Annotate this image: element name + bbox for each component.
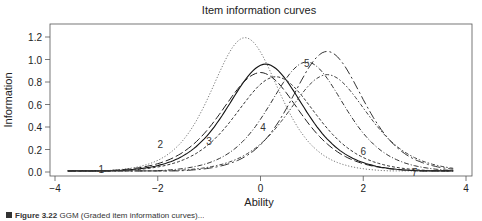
y-tick-label: 0.6 <box>28 100 42 111</box>
y-tick-label: 0.0 <box>28 167 42 178</box>
info-curve-4 <box>68 62 453 171</box>
x-tick-label: 4 <box>463 183 469 194</box>
x-tick-label: −4 <box>49 183 61 194</box>
info-curve-2 <box>68 64 453 171</box>
y-tick-label: 0.8 <box>28 77 42 88</box>
info-curve-1 <box>68 38 453 171</box>
y-tick-label: 1.0 <box>28 55 42 66</box>
x-tick-label: 2 <box>360 183 366 194</box>
curve-label-6: 6 <box>360 146 366 157</box>
x-tick-label: 0 <box>258 183 264 194</box>
caption-figure-label: Figure 3.22 <box>15 211 57 220</box>
item-information-chart: Item information curves 0.00.20.40.60.81… <box>0 0 482 221</box>
curve-label-1: 1 <box>98 164 104 175</box>
curve-label-4: 4 <box>260 122 266 133</box>
curves <box>68 38 453 171</box>
x-axis: −4−2024 <box>49 176 469 194</box>
y-axis-label: Information <box>2 72 14 127</box>
chart-title: Item information curves <box>202 4 317 16</box>
y-tick-label: 1.2 <box>28 32 42 43</box>
y-tick-label: 0.2 <box>28 145 42 156</box>
x-tick-label: −2 <box>152 183 164 194</box>
curve-label-7: 7 <box>412 167 418 178</box>
y-tick-label: 0.4 <box>28 122 42 133</box>
x-axis-label: Ability <box>244 196 274 208</box>
curve-label-5: 5 <box>304 58 310 69</box>
caption-text: GGM (Graded item information curves)... <box>59 211 204 220</box>
figure-caption: Figure 3.22 GGM (Graded item information… <box>6 211 204 221</box>
plot-frame <box>50 24 472 176</box>
curve-label-3: 3 <box>206 136 212 147</box>
y-axis: 0.00.20.40.60.81.01.2 <box>28 32 50 178</box>
caption-marker-icon <box>6 212 12 218</box>
info-curve-7 <box>68 51 453 171</box>
curve-label-2: 2 <box>158 139 164 150</box>
